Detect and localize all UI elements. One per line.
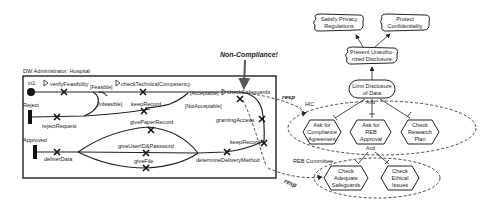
actor-label-reb: REB Committee (293, 158, 333, 164)
path-fork-paper (78, 127, 198, 153)
resp-checkTechnicalCompetency[interactable]: checkTechnicalCompetency (116, 80, 191, 95)
resp-giveFile[interactable]: giveFile (134, 158, 153, 171)
decomp-bar-4 (355, 160, 359, 164)
task-ask-reb[interactable]: Ask for REB Approval (350, 120, 391, 144)
component-title: DW Administrator: Hospital (23, 68, 90, 74)
softgoal-satisfy-privacy[interactable]: Satisfy Privacy Regulations (314, 14, 364, 31)
softgoal-prevent-unauthorized[interactable]: Prevent Unautho- rized Disclosure (346, 47, 398, 64)
svg-text:verifyFeasibility: verifyFeasibility (50, 81, 88, 87)
svg-text:keepRecord: keepRecord (230, 139, 260, 145)
start-point-reject[interactable]: Reject (23, 102, 39, 124)
svg-text:of Data: of Data (363, 90, 382, 96)
svg-text:Confidentiality: Confidentiality (387, 23, 422, 29)
svg-text:Prevent Unautho-: Prevent Unautho- (350, 49, 394, 55)
resp-giveUserIDPassword[interactable]: giveUserID&Password (118, 143, 174, 156)
and-label-top: And (366, 99, 375, 105)
softgoal-protect-confidentiality[interactable]: Protect Confidentiality (381, 14, 430, 31)
svg-text:determineDeliveryMethod: determineDeliveryMethod (196, 157, 260, 163)
cond-acceptable: [Acceptable] (190, 90, 219, 96)
svg-text:deliverData: deliverData (44, 156, 73, 162)
svg-text:giveUserID&Password: giveUserID&Password (118, 143, 174, 149)
svg-text:Plan: Plan (414, 136, 425, 142)
svg-text:Approval: Approval (360, 136, 382, 142)
task-check-safeguards[interactable]: Check Adequate Safeguards (324, 166, 368, 190)
resp-deliverData[interactable]: deliverData (44, 149, 73, 162)
start-label-approved: Approved (23, 137, 47, 143)
contribution-to-confidentiality (375, 34, 390, 47)
non-compliance-arrow (244, 60, 245, 86)
svg-text:Check: Check (338, 168, 354, 174)
svg-text:Adequate: Adequate (334, 175, 358, 181)
cond-not-acceptable: [NotAcceptable] (185, 103, 222, 109)
path-fork-userid (78, 152, 198, 153)
resp-label-2: resp (283, 177, 298, 188)
and-label-bottom: And (366, 145, 375, 151)
svg-text:Research: Research (408, 129, 432, 135)
contribution-to-privacy (356, 35, 363, 47)
goal-limit-disclosure[interactable]: Limit Disclosure of Data (349, 80, 395, 98)
svg-text:checkSafeguards: checkSafeguards (227, 89, 270, 95)
start-label-reject: Reject (23, 102, 39, 108)
resp-determineDeliveryMethod[interactable]: determineDeliveryMethod (196, 149, 260, 163)
non-compliance-label: Non-Compliance! (220, 51, 279, 59)
start-point-in1[interactable]: in1 (27, 80, 35, 96)
svg-text:keepRecord: keepRecord (131, 101, 161, 107)
svg-text:grantingAccess: grantingAccess (216, 117, 254, 123)
svg-text:Check: Check (412, 122, 428, 128)
svg-text:rejectRequest: rejectRequest (42, 123, 77, 129)
svg-text:Compliance: Compliance (307, 129, 337, 135)
resp-grantingAccess[interactable]: grantingAccess (216, 116, 265, 123)
svg-text:REB: REB (365, 129, 377, 135)
actor-label-hic: HIC (305, 101, 314, 107)
svg-text:Issues: Issues (392, 182, 408, 188)
resp-verifyFeasibility[interactable]: verifyFeasibility (44, 80, 88, 95)
resp-label-1: resp (282, 93, 295, 100)
start-label-in1: in1 (28, 80, 35, 86)
svg-text:Safeguards: Safeguards (332, 182, 361, 188)
svg-text:Check: Check (392, 168, 408, 174)
task-ask-compliance[interactable]: Ask for Compliance Agreement (303, 120, 341, 144)
svg-text:Ask for: Ask for (362, 122, 380, 128)
svg-text:Ask for: Ask for (313, 122, 331, 128)
svg-text:Agreement: Agreement (308, 136, 336, 142)
decomp-compliance (335, 99, 365, 118)
svg-text:givePaperRecord: givePaperRecord (130, 119, 173, 125)
task-check-research[interactable]: Check Research Plan (401, 120, 439, 144)
decomp-bar-3 (407, 112, 411, 117)
cond-infeasible: [Infeasible] (97, 101, 123, 107)
task-check-ethical[interactable]: Check Ethical Issues (381, 166, 419, 190)
svg-text:Satisfy Privacy: Satisfy Privacy (321, 16, 358, 22)
svg-text:checkTechnicalCompetency: checkTechnicalCompetency (121, 81, 191, 87)
svg-text:rized Disclosure: rized Disclosure (352, 56, 392, 62)
svg-text:Ethical: Ethical (392, 175, 409, 181)
svg-text:Protect: Protect (396, 16, 414, 22)
svg-text:Limit Disclosure: Limit Disclosure (352, 83, 391, 89)
svg-text:Regulations: Regulations (324, 23, 354, 29)
cond-feasible: [Feasible] (90, 84, 113, 90)
svg-text:giveFile: giveFile (134, 158, 153, 164)
